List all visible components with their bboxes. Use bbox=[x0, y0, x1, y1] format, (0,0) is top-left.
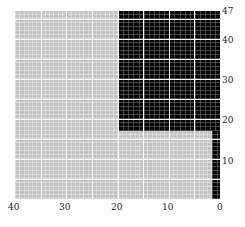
black-strip-region bbox=[212, 131, 220, 199]
heatmap-plot-area bbox=[15, 11, 220, 199]
y-tick-47: 47 bbox=[222, 7, 233, 16]
major-gridline-y bbox=[15, 119, 220, 120]
major-gridline-y bbox=[15, 179, 220, 180]
major-gridline-y bbox=[15, 59, 220, 60]
major-gridline-y bbox=[15, 79, 220, 80]
y-tick-10: 10 bbox=[222, 157, 233, 166]
x-tick-0: 0 bbox=[217, 203, 223, 212]
major-gridline-y bbox=[15, 19, 220, 20]
x-tick-30: 30 bbox=[59, 203, 70, 212]
x-tick-40: 40 bbox=[8, 203, 19, 212]
major-gridline-y bbox=[15, 99, 220, 100]
x-tick-10: 10 bbox=[162, 203, 173, 212]
y-tick-30: 30 bbox=[222, 76, 233, 85]
x-tick-20: 20 bbox=[111, 203, 122, 212]
y-tick-20: 20 bbox=[222, 116, 233, 125]
major-gridline-y bbox=[15, 139, 220, 140]
y-tick-40: 40 bbox=[222, 36, 233, 45]
major-gridline-y bbox=[15, 39, 220, 40]
major-gridline-y bbox=[15, 159, 220, 160]
